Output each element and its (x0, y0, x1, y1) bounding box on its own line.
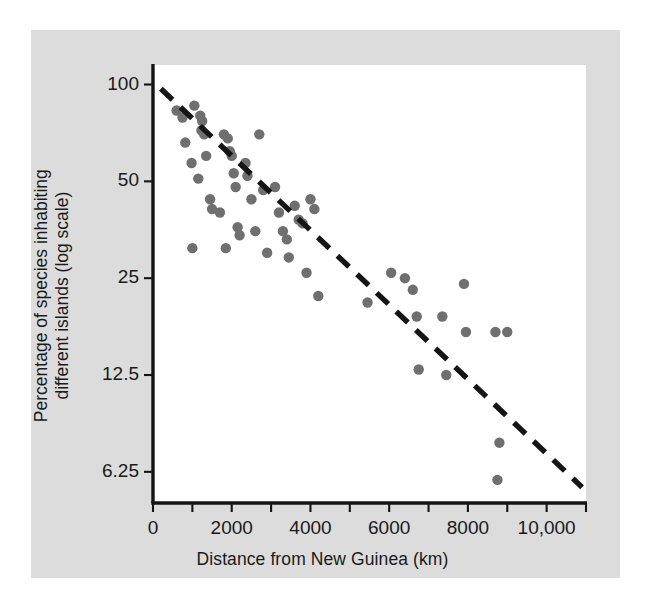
data-point (414, 364, 424, 374)
data-point (441, 370, 451, 380)
data-point (187, 243, 197, 253)
y-tick-label: 6.25 (102, 460, 139, 482)
data-point (313, 291, 323, 301)
plot-area-wrapper: 100502512.56.25 0200040006000800010,000 (0, 0, 645, 605)
y-tick-label: 25 (118, 266, 139, 288)
data-point (223, 133, 233, 143)
data-point (494, 437, 504, 447)
y-tick-label: 50 (118, 169, 139, 191)
data-point (309, 204, 319, 214)
data-point (230, 182, 240, 192)
y-tick-label: 100 (107, 73, 139, 95)
data-point (250, 226, 260, 236)
y-axis-title-line-1: Percentage of species inhabiting (31, 76, 52, 516)
scatter-plot-svg (0, 0, 645, 605)
data-point (254, 129, 264, 139)
x-axis-title: Distance from New Guinea (km) (0, 549, 645, 570)
data-point (186, 158, 196, 168)
chart-figure: 100502512.56.25 0200040006000800010,000 … (0, 0, 645, 605)
y-axis-title: Percentage of species inhabiting differe… (31, 76, 72, 516)
data-point (221, 243, 231, 253)
data-point (205, 194, 215, 204)
data-point (362, 297, 372, 307)
data-point (386, 268, 396, 278)
data-point (229, 168, 239, 178)
data-point (502, 327, 512, 337)
data-point (437, 311, 447, 321)
y-axis-title-line-2: different islands (log scale) (52, 76, 73, 516)
data-point (408, 285, 418, 295)
data-point (234, 230, 244, 240)
data-point (305, 194, 315, 204)
data-point (262, 248, 272, 258)
x-tick-label: 10,000 (487, 517, 607, 539)
data-point (180, 137, 190, 147)
data-point (193, 173, 203, 183)
data-point (461, 327, 471, 337)
data-point (189, 100, 199, 110)
data-point (459, 279, 469, 289)
data-point (284, 252, 294, 262)
data-point (490, 327, 500, 337)
data-point (400, 273, 410, 283)
data-point (201, 151, 211, 161)
y-tick-label: 12.5 (102, 363, 139, 385)
data-point (282, 234, 292, 244)
data-point (246, 194, 256, 204)
data-point (215, 207, 225, 217)
data-point (412, 311, 422, 321)
data-point (492, 475, 502, 485)
data-point (301, 268, 311, 278)
data-point (274, 207, 284, 217)
